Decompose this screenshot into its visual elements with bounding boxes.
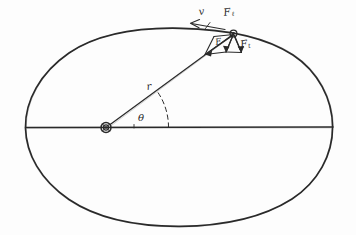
velocity-arrow [191, 20, 226, 30]
velocity-label: v [198, 5, 205, 17]
force-transverse-sub: t [247, 42, 251, 49]
force-longitudinal-label: F ℓ [222, 6, 235, 18]
orbital-force-diagram: r θ v [0, 0, 356, 235]
major-axis-line [26, 127, 334, 128]
force-longitudinal-sub: ℓ [231, 10, 235, 17]
force-total-label: F [213, 36, 223, 47]
force-transverse-label: F t [238, 38, 251, 50]
radius-label: r [146, 80, 153, 92]
force-parallelogram [205, 35, 244, 57]
orbit-diagram-canvas: r θ v [0, 0, 356, 235]
theta-label: θ [138, 112, 144, 123]
